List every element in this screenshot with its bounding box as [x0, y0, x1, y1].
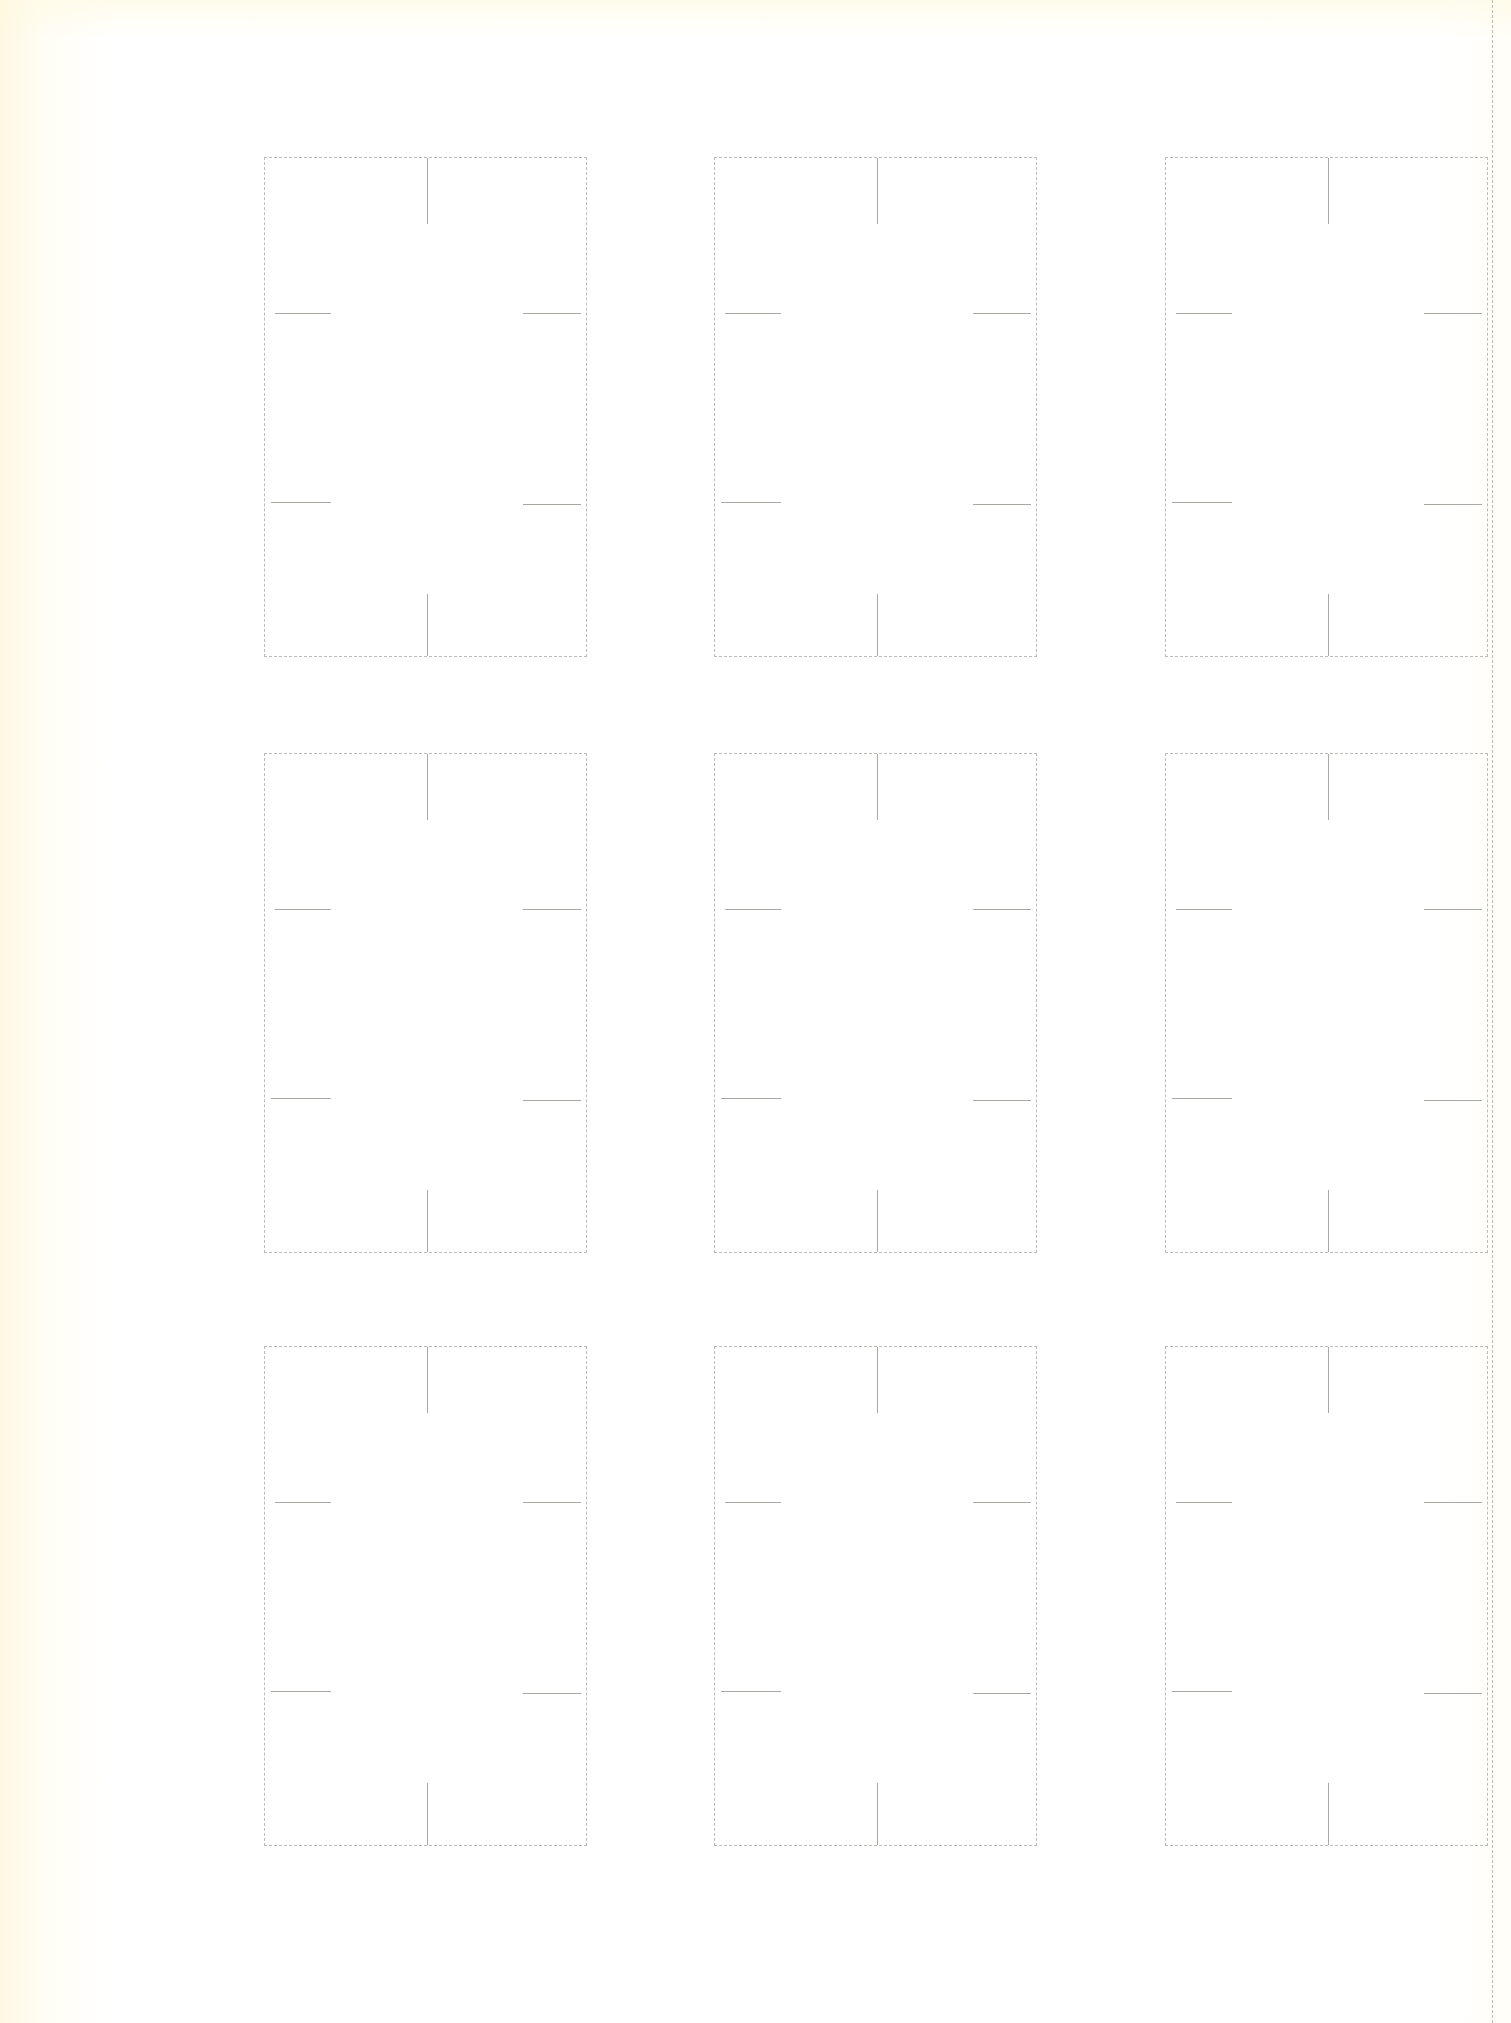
card-outline-r3-c1: [264, 1346, 587, 1846]
card-outline-r1-c2: [714, 157, 1037, 657]
fold-mark-right-lower: [973, 504, 1031, 505]
fold-mark-bottom: [877, 594, 878, 656]
fold-mark-right-upper: [523, 909, 581, 910]
card-outline-r2-c1: [264, 753, 587, 1253]
fold-mark-top: [427, 1347, 428, 1413]
fold-mark-left-upper: [725, 1502, 781, 1503]
fold-mark-left-upper: [1176, 1502, 1232, 1503]
fold-mark-right-upper: [1424, 1502, 1482, 1503]
fold-mark-bottom: [427, 1190, 428, 1252]
card-outline-r1-c3: [1165, 157, 1488, 657]
fold-mark-left-upper: [275, 313, 331, 314]
fold-mark-left-upper: [1176, 313, 1232, 314]
fold-mark-bottom: [427, 1783, 428, 1845]
fold-mark-left-upper: [725, 313, 781, 314]
fold-mark-right-lower: [523, 1693, 581, 1694]
fold-mark-right-upper: [973, 313, 1031, 314]
fold-mark-bottom: [877, 1783, 878, 1845]
fold-mark-left-upper: [1176, 909, 1232, 910]
fold-mark-bottom: [1328, 1783, 1329, 1845]
fold-mark-bottom: [1328, 1190, 1329, 1252]
card-outline-r2-c3: [1165, 753, 1488, 1253]
fold-mark-top: [877, 754, 878, 820]
fold-mark-left-lower: [1172, 502, 1232, 503]
fold-mark-right-upper: [973, 909, 1031, 910]
fold-mark-top: [427, 158, 428, 224]
card-outline-r3-c2: [714, 1346, 1037, 1846]
trim-line: [1492, 0, 1493, 2023]
card-outline-r3-c3: [1165, 1346, 1488, 1846]
fold-mark-right-lower: [1424, 1693, 1482, 1694]
fold-mark-right-upper: [973, 1502, 1031, 1503]
fold-mark-right-upper: [523, 1502, 581, 1503]
fold-mark-right-upper: [1424, 909, 1482, 910]
fold-mark-left-upper: [725, 909, 781, 910]
fold-mark-left-lower: [721, 1098, 781, 1099]
fold-mark-left-lower: [721, 502, 781, 503]
fold-mark-right-lower: [973, 1693, 1031, 1694]
fold-mark-bottom: [427, 594, 428, 656]
fold-mark-right-lower: [1424, 504, 1482, 505]
fold-mark-right-lower: [523, 504, 581, 505]
paper-tint: [0, 0, 1511, 40]
fold-mark-left-lower: [721, 1691, 781, 1692]
fold-mark-bottom: [1328, 594, 1329, 656]
fold-mark-right-upper: [523, 313, 581, 314]
card-outline-r1-c1: [264, 157, 587, 657]
fold-mark-left-lower: [271, 1691, 331, 1692]
fold-mark-right-lower: [973, 1100, 1031, 1101]
fold-mark-left-lower: [271, 1098, 331, 1099]
card-outline-r2-c2: [714, 753, 1037, 1253]
fold-mark-top: [1328, 1347, 1329, 1413]
fold-mark-right-lower: [523, 1100, 581, 1101]
fold-mark-right-upper: [1424, 313, 1482, 314]
fold-mark-left-upper: [275, 909, 331, 910]
fold-mark-left-lower: [1172, 1691, 1232, 1692]
fold-mark-bottom: [877, 1190, 878, 1252]
fold-mark-top: [427, 754, 428, 820]
fold-mark-left-lower: [1172, 1098, 1232, 1099]
fold-mark-right-lower: [1424, 1100, 1482, 1101]
fold-mark-left-lower: [271, 502, 331, 503]
fold-mark-top: [1328, 158, 1329, 224]
fold-mark-top: [1328, 754, 1329, 820]
fold-mark-left-upper: [275, 1502, 331, 1503]
fold-mark-top: [877, 1347, 878, 1413]
fold-mark-top: [877, 158, 878, 224]
